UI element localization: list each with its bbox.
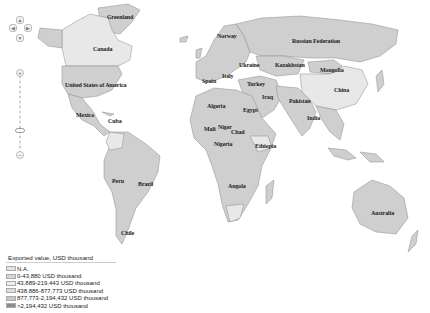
country-label: Brazil bbox=[138, 181, 153, 187]
legend-item: >2,194,432 USD thousand bbox=[6, 302, 116, 309]
legend-item: 43,889-219,443 USD thousand bbox=[6, 280, 116, 287]
country-label: Mongolia bbox=[320, 67, 344, 73]
pan-down-button[interactable]: ▼ bbox=[16, 34, 24, 42]
country-label: Kazakhstan bbox=[275, 62, 305, 68]
country-label: Canada bbox=[93, 46, 112, 52]
legend-item: 877,773-2,194,432 USD thousand bbox=[6, 295, 116, 302]
country-label: Australia bbox=[371, 210, 394, 216]
legend-swatch bbox=[6, 274, 16, 279]
legend-label: 877,773-2,194,432 USD thousand bbox=[17, 295, 108, 301]
country-label: Egypt bbox=[243, 107, 258, 113]
pan-left-button[interactable]: ◀ bbox=[9, 24, 17, 32]
country-label: Ethiopia bbox=[255, 143, 276, 149]
legend-swatch bbox=[6, 296, 16, 301]
country-label: Norway bbox=[217, 33, 237, 39]
country-label: Peru bbox=[112, 178, 124, 184]
country-label: Angola bbox=[228, 183, 246, 189]
country-label: India bbox=[307, 115, 320, 121]
legend-swatch bbox=[6, 288, 16, 293]
legend-label: 43,889-219,443 USD thousand bbox=[17, 280, 100, 286]
legend-label: 0-43,880 USD thousand bbox=[17, 273, 81, 279]
zoom-out-button[interactable]: − bbox=[16, 151, 24, 159]
country-label: Chile bbox=[121, 230, 134, 236]
zoom-slider-track[interactable] bbox=[19, 76, 21, 152]
map-legend: Exported value, USD thousand N.A. 0-43,8… bbox=[6, 254, 116, 309]
country-label: Greenland bbox=[107, 14, 133, 20]
legend-item: 0-43,880 USD thousand bbox=[6, 272, 116, 279]
country-label: United States of America bbox=[65, 82, 126, 88]
country-label: Cuba bbox=[108, 118, 122, 124]
legend-swatch bbox=[6, 281, 16, 286]
country-label: Niger bbox=[218, 124, 232, 130]
legend-item: N.A. bbox=[6, 265, 116, 272]
country-label: Algeria bbox=[207, 103, 225, 109]
zoom-slider-handle[interactable] bbox=[15, 128, 25, 133]
country-label: Pakistan bbox=[289, 98, 311, 104]
country-label: Turkey bbox=[247, 81, 265, 87]
country-label: Iraq bbox=[262, 94, 273, 100]
legend-label: >2,194,432 USD thousand bbox=[17, 303, 88, 309]
country-label: China bbox=[334, 87, 349, 93]
legend-swatch bbox=[6, 303, 16, 308]
country-label: Mexico bbox=[76, 112, 94, 118]
country-label: Ukraine bbox=[239, 62, 259, 68]
legend-item: 438,886-877,773 USD thousand bbox=[6, 287, 116, 294]
country-label: Chad bbox=[231, 129, 245, 135]
legend-title: Exported value, USD thousand bbox=[6, 254, 116, 263]
country-label: Russian Federation bbox=[292, 38, 340, 44]
legend-label: N.A. bbox=[17, 266, 29, 272]
pan-right-button[interactable]: ▶ bbox=[24, 24, 32, 32]
country-label: Italy bbox=[222, 73, 234, 79]
pan-up-button[interactable]: ▲ bbox=[16, 16, 24, 24]
country-label: Spain bbox=[202, 78, 216, 84]
legend-swatch bbox=[6, 266, 16, 271]
country-label: Mali bbox=[204, 126, 216, 132]
zoom-in-button[interactable]: + bbox=[16, 69, 24, 77]
legend-label: 438,886-877,773 USD thousand bbox=[17, 288, 103, 294]
country-label: Nigeria bbox=[214, 141, 232, 147]
